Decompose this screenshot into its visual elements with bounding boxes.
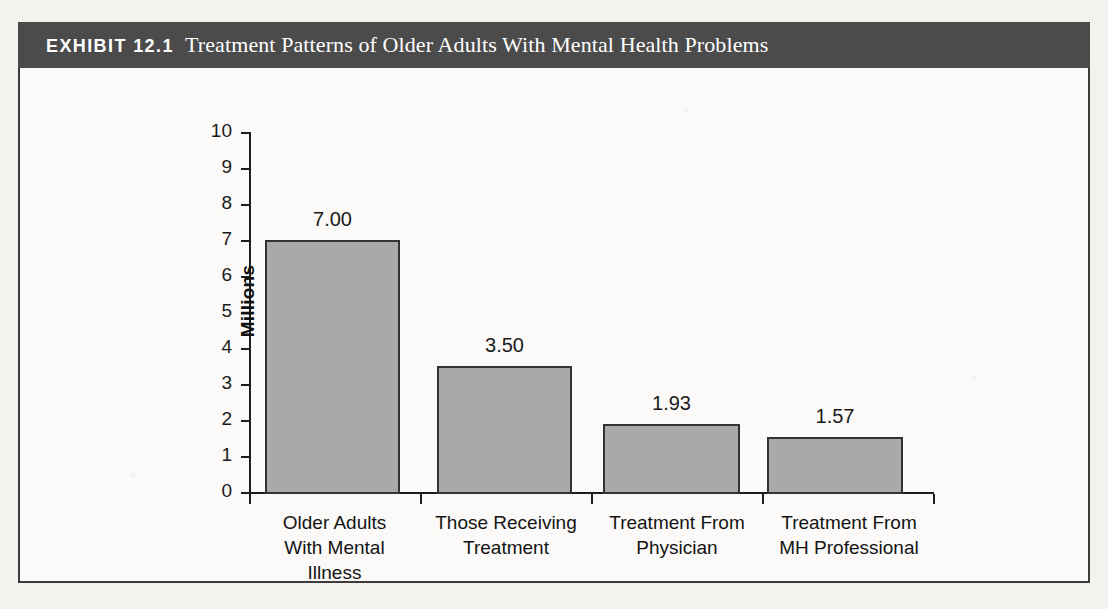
y-tick-label-10: 10 [202,120,232,142]
x-category-label-1-line-0: Those Receiving [417,510,595,535]
x-category-label-2-line-0: Treatment From [588,510,766,535]
x-tick-1 [420,494,422,504]
y-tick-2 [241,420,250,422]
x-category-label-2: Treatment From Physician [588,510,766,560]
x-category-label-0-line-0: Older Adults [247,510,422,535]
y-tick-label-7: 7 [202,228,232,250]
bar-value-label-0: 7.00 [265,208,400,231]
y-tick-label-8: 8 [202,192,232,214]
exhibit-header-bar: EXHIBIT 12.1 Treatment Patterns of Older… [18,22,1090,68]
x-category-label-2-line-1: Physician [588,535,766,560]
exhibit-page: EXHIBIT 12.1 Treatment Patterns of Older… [0,0,1108,609]
bar-treatment-from-physician [603,424,740,494]
bar-those-receiving-treatment [437,366,572,494]
x-category-label-1: Those Receiving Treatment [417,510,595,560]
y-tick-label-9: 9 [202,156,232,178]
y-axis-title: Millions [237,241,259,361]
exhibit-title-text: Treatment Patterns of Older Adults With … [185,32,768,57]
x-tick-3 [762,494,764,504]
y-tick-label-3: 3 [202,372,232,394]
y-tick-8 [241,204,250,206]
y-tick-label-0: 0 [202,480,232,502]
bar-chart: 10 9 8 7 6 5 4 3 2 1 0 Millions 7 [20,68,1088,581]
bar-value-label-1: 3.50 [437,334,572,357]
x-tick-2 [591,494,593,504]
x-category-label-0: Older Adults With Mental Illness [247,510,422,585]
y-tick-9 [241,168,250,170]
y-tick-1 [241,456,250,458]
bar-value-label-2: 1.93 [603,392,740,415]
exhibit-number: EXHIBIT 12.1 [46,36,174,56]
x-category-label-3: Treatment From MH Professional [758,510,940,560]
y-tick-label-6: 6 [202,264,232,286]
y-tick-label-1: 1 [202,444,232,466]
bar-treatment-from-mh-professional [767,437,903,494]
x-category-label-3-line-1: MH Professional [758,535,940,560]
exhibit-frame: EXHIBIT 12.1 Treatment Patterns of Older… [18,22,1090,583]
x-tick-4 [933,494,935,504]
y-tick-3 [241,384,250,386]
exhibit-title: EXHIBIT 12.1 Treatment Patterns of Older… [46,22,768,68]
y-tick-label-5: 5 [202,300,232,322]
x-category-label-0-line-2: Illness [247,560,422,585]
y-tick-label-2: 2 [202,408,232,430]
x-category-label-0-line-1: With Mental [247,535,422,560]
y-tick-label-4: 4 [202,336,232,358]
y-tick-10 [241,132,250,134]
x-category-label-3-line-0: Treatment From [758,510,940,535]
bar-older-adults-with-mental-illness [265,240,400,494]
bar-value-label-3: 1.57 [767,405,903,428]
x-category-label-1-line-1: Treatment [417,535,595,560]
x-tick-0 [249,494,251,504]
